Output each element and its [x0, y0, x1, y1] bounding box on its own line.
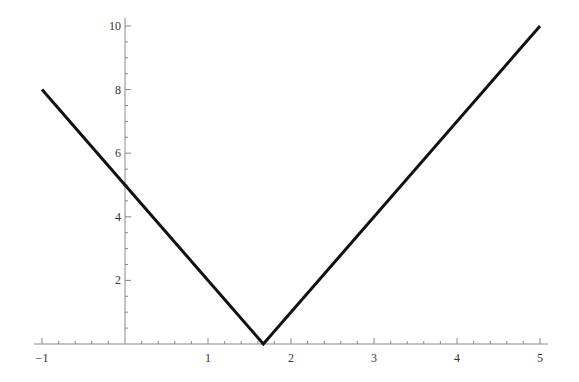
x-tick-label: −1 — [36, 351, 49, 365]
x-tick-label: 5 — [537, 351, 543, 365]
y-tick-label: 2 — [115, 273, 121, 287]
x-tick-labels: −112345 — [36, 351, 543, 365]
x-tick-label: 1 — [205, 351, 211, 365]
chart-canvas: −112345 246810 — [0, 0, 579, 382]
x-tick-label: 2 — [288, 351, 294, 365]
y-tick-label: 4 — [115, 210, 121, 224]
x-tick-label: 4 — [454, 351, 460, 365]
y-tick-label: 6 — [115, 146, 121, 160]
minor-ticks — [42, 26, 540, 344]
data-line — [42, 26, 540, 344]
y-tick-labels: 246810 — [109, 19, 121, 287]
y-tick-label: 8 — [115, 83, 121, 97]
y-tick-label: 10 — [109, 19, 121, 33]
x-tick-label: 3 — [371, 351, 377, 365]
